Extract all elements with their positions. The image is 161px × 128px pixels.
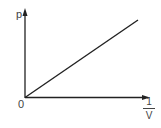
data-line xyxy=(25,20,138,98)
fraction-bar xyxy=(143,108,155,109)
y-axis-arrow-icon xyxy=(23,8,28,16)
x-label-denominator: V xyxy=(143,110,155,121)
origin-label: 0 xyxy=(18,99,24,110)
y-axis-label: p xyxy=(16,9,22,20)
chart-plot xyxy=(0,0,161,128)
x-axis-label: 1 V xyxy=(143,96,155,121)
x-label-numerator: 1 xyxy=(143,96,155,107)
